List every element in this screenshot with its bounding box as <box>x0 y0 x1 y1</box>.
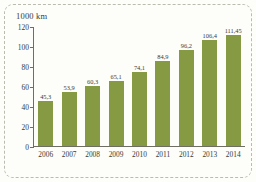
bar-slot: 74,1 <box>128 27 151 146</box>
bar-chart-figure: 1000 km 020406080100120 45,353,960,365,1… <box>0 0 256 182</box>
bar-value-label: 65,1 <box>110 73 121 80</box>
plot-area: 020406080100120 45,353,960,365,174,184,9… <box>33 27 245 147</box>
bar: 65,1 <box>109 81 124 146</box>
x-tick-label: 2009 <box>104 150 127 159</box>
bar: 106,4 <box>202 40 217 146</box>
chart-unit-title: 1000 km <box>16 11 47 21</box>
bar: 60,3 <box>85 86 100 146</box>
bar: 111,45 <box>226 35 241 146</box>
y-tick-label: 120 <box>18 23 29 32</box>
y-tick-label: 80 <box>22 63 30 72</box>
bar-value-label: 45,3 <box>40 93 51 100</box>
bar-slot: 65,1 <box>104 27 127 146</box>
x-tick-label: 2007 <box>57 150 80 159</box>
y-tick-label: 100 <box>18 43 29 52</box>
x-tick-label: 2013 <box>198 150 221 159</box>
bar-value-label: 111,45 <box>225 27 242 34</box>
bar-slot: 84,9 <box>151 27 174 146</box>
bar-slot: 106,4 <box>198 27 221 146</box>
x-tick-label: 2011 <box>151 150 174 159</box>
bar: 45,3 <box>38 101 53 146</box>
bar: 74,1 <box>132 72 147 146</box>
y-tick-mark <box>30 147 34 148</box>
x-tick-label: 2010 <box>128 150 151 159</box>
bar-value-label: 74,1 <box>134 64 145 71</box>
bar-value-label: 60,3 <box>87 78 98 85</box>
bar-value-label: 84,9 <box>157 53 168 60</box>
bar-slot: 60,3 <box>81 27 104 146</box>
x-tick-label: 2008 <box>81 150 104 159</box>
bar-value-label: 106,4 <box>203 32 217 39</box>
y-tick-label: 40 <box>22 103 30 112</box>
bar-slot: 53,9 <box>57 27 80 146</box>
x-axis-labels: 200620072008200920102011201220132014 <box>34 150 245 159</box>
x-tick-label: 2006 <box>34 150 57 159</box>
x-tick-label: 2014 <box>222 150 245 159</box>
bar: 53,9 <box>62 92 77 146</box>
bar: 84,9 <box>155 61 170 146</box>
bar-value-label: 53,9 <box>64 84 75 91</box>
bar-slot: 111,45 <box>222 27 245 146</box>
y-tick-label: 0 <box>25 143 29 152</box>
bar-value-label: 96,2 <box>181 42 192 49</box>
bar: 96,2 <box>179 50 194 146</box>
y-tick-label: 20 <box>22 123 30 132</box>
y-tick-label: 60 <box>22 83 30 92</box>
bar-slot: 96,2 <box>175 27 198 146</box>
x-axis-baseline <box>33 146 245 147</box>
x-tick-label: 2012 <box>175 150 198 159</box>
bar-slot: 45,3 <box>34 27 57 146</box>
bar-series: 45,353,960,365,174,184,996,2106,4111,45 <box>34 27 245 146</box>
